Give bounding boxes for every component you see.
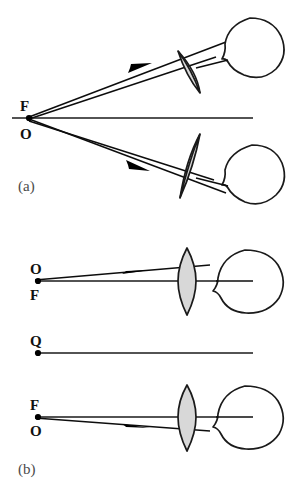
eye-b-top	[213, 250, 283, 313]
eye-axis-a-upper	[196, 60, 228, 68]
point-marker-b-middle	[35, 350, 41, 356]
panel-b-row-middle: Q	[30, 333, 253, 356]
panel-label-b: (b)	[18, 461, 36, 478]
lens-shape-a-upper	[178, 51, 200, 93]
point-label-b-top-below: F	[30, 287, 39, 303]
point-label-b-bottom-below: O	[30, 423, 42, 439]
point-label-b-bottom-above: F	[30, 397, 39, 413]
converging-lens-b-top	[178, 248, 196, 315]
converging-lens-a-lower	[180, 134, 200, 198]
point-label-b-top-above: O	[30, 261, 42, 277]
ray-bundle-a-lower	[29, 119, 226, 193]
eye-b-bottom	[213, 386, 283, 449]
lens-shape-b-top	[178, 248, 196, 315]
panel-b-row-top: O F	[30, 248, 283, 315]
converging-lens-a-upper	[178, 51, 200, 93]
point-label-a-below: O	[20, 126, 32, 142]
converging-lens-b-bottom	[178, 385, 196, 451]
panel-a: F O (a)	[12, 18, 284, 204]
lens-shape-b-bottom	[178, 385, 196, 451]
eye-outline-a-upper	[222, 18, 284, 77]
point-label-a-above: F	[20, 98, 29, 114]
point-marker-a	[26, 115, 32, 121]
lens-shape-a-lower	[180, 134, 200, 198]
panel-label-a: (a)	[18, 178, 35, 195]
point-label-b-middle-above: Q	[30, 333, 42, 349]
eye-outline-a-lower	[222, 145, 284, 204]
panel-b: O F Q	[18, 248, 283, 478]
panel-b-row-bottom: F O	[30, 385, 283, 451]
point-marker-b-top	[35, 278, 41, 284]
optics-diagram-canvas: F O (a) O F	[0, 0, 296, 498]
eye-a-lower	[196, 145, 284, 204]
optics-figure: F O (a) O F	[0, 0, 296, 498]
point-marker-b-bottom	[35, 414, 41, 420]
ray-arrowhead-a-lower	[126, 160, 150, 171]
